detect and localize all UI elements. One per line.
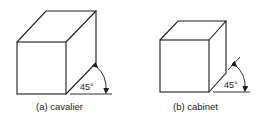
cavalier-angle-arc	[96, 66, 106, 91]
cavalier-caption: (a) cavalier	[36, 101, 83, 112]
cavalier-angle-label: 45°	[80, 82, 94, 92]
cabinet-top-face	[160, 21, 226, 40]
cabinet-front-face	[160, 40, 209, 92]
cabinet-caption: (b) cabinet	[173, 101, 218, 112]
cavalier-top-face	[17, 11, 96, 42]
cabinet-angle-label: 45°	[224, 80, 238, 90]
cavalier-front-face	[17, 42, 66, 94]
